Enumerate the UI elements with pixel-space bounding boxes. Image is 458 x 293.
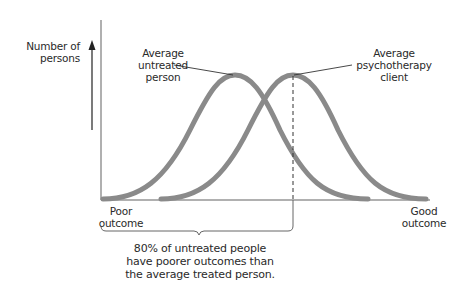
caption-line: 80% of untreated people bbox=[120, 242, 280, 255]
annotation-line: Average bbox=[344, 47, 444, 59]
annotation-line: psychotherapy bbox=[344, 59, 444, 71]
annotation-line: untreated bbox=[128, 59, 198, 71]
annotation-line: person bbox=[128, 71, 198, 83]
annotation-line: client bbox=[344, 71, 444, 83]
caption-line: the average treated person. bbox=[120, 268, 280, 281]
poor-outcome-label: Poor outcome bbox=[96, 205, 146, 229]
y-axis-label: Number of persons bbox=[20, 40, 80, 64]
x-label-line: Good bbox=[394, 205, 454, 217]
x-label-line: outcome bbox=[394, 217, 454, 229]
x-label-line: Poor bbox=[96, 205, 146, 217]
arrow-head-icon bbox=[89, 40, 96, 50]
annotation-line: Average bbox=[128, 47, 198, 59]
bracket-caption: 80% of untreated people have poorer outc… bbox=[120, 242, 280, 281]
treated-annotation: Average psychotherapy client bbox=[344, 47, 444, 83]
x-label-line: outcome bbox=[96, 217, 146, 229]
y-label-line: persons bbox=[20, 52, 80, 64]
good-outcome-label: Good outcome bbox=[394, 205, 454, 229]
y-label-line: Number of bbox=[20, 40, 80, 52]
untreated-annotation: Average untreated person bbox=[128, 47, 198, 83]
untreated-curve bbox=[103, 75, 368, 199]
caption-line: have poorer outcomes than bbox=[120, 255, 280, 268]
